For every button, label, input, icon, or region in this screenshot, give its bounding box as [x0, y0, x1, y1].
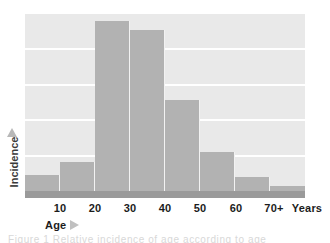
x-axis-tick-label: 10	[54, 202, 67, 214]
bar	[95, 21, 130, 198]
x-axis-tick-label: 20	[89, 202, 102, 214]
x-axis-group: Age	[45, 218, 79, 232]
figure-caption: Figure 1 Relative incidence of age accor…	[8, 234, 328, 243]
x-axis-tick-label: 40	[159, 202, 172, 214]
x-axis-tick-labels: 10203040506070+Years	[0, 202, 330, 217]
x-axis-tick-label: 70+	[264, 202, 283, 214]
y-axis-label: Incidence	[8, 131, 20, 193]
x-axis-tick-label: Years	[292, 202, 322, 214]
x-axis-tick-label: 30	[124, 202, 137, 214]
x-axis-label: Age	[45, 219, 66, 231]
histogram-figure: 10203040506070+Years Incidence Age Figur…	[0, 0, 330, 243]
plot-area	[25, 12, 305, 198]
x-axis-baseline	[25, 191, 305, 198]
y-axis-group: Incidence	[2, 128, 24, 210]
x-axis-tick-label: 60	[230, 202, 243, 214]
x-axis-tick-label: 50	[194, 202, 207, 214]
bar	[130, 30, 165, 198]
bar-series	[25, 12, 305, 198]
right-triangle-icon	[70, 220, 79, 230]
bar	[165, 100, 200, 198]
